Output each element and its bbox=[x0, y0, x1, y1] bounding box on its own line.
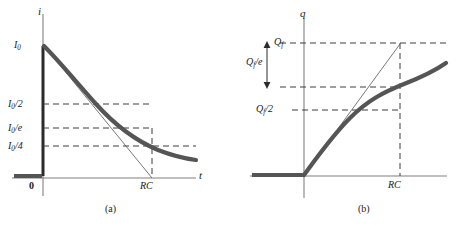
ylabel-I0-over-4: I0/4 bbox=[8, 141, 23, 153]
caption-b: (b) bbox=[358, 203, 370, 214]
caption-a: (a) bbox=[105, 203, 116, 214]
ylabel-I0-over-2: I0/2 bbox=[8, 99, 23, 111]
axis-label-t: t bbox=[199, 170, 202, 181]
panel-b-charge-buildup: Qf Qf/e Qf/2 q RC (b) bbox=[232, 0, 463, 228]
xtick-RC-b: RC bbox=[388, 180, 401, 190]
xtick-RC-a: RC bbox=[140, 181, 153, 191]
ylabel-I0: I0 bbox=[14, 40, 21, 52]
ylabel-Qf: Qf bbox=[274, 37, 283, 49]
ylabel-Qf-over-e: Qf/e bbox=[246, 57, 262, 69]
panel-a-plot bbox=[0, 0, 232, 228]
panel-a-current-decay: I0 I0/2 I0/e I0/4 i t 0 RC (a) bbox=[0, 0, 232, 228]
qf-over-e-arrow bbox=[264, 41, 271, 89]
axis-label-i: i bbox=[38, 6, 41, 17]
rc-circuit-figure: I0 I0/2 I0/e I0/4 i t 0 RC (a) bbox=[0, 0, 463, 228]
ylabel-I0-over-e: I0/e bbox=[8, 123, 22, 135]
origin-label-a: 0 bbox=[29, 181, 34, 191]
axis-label-q: q bbox=[300, 8, 306, 19]
charge-buildup-curve bbox=[304, 63, 446, 175]
ylabel-Qf-over-2: Qf/2 bbox=[256, 104, 273, 116]
current-decay-curve bbox=[44, 46, 196, 160]
